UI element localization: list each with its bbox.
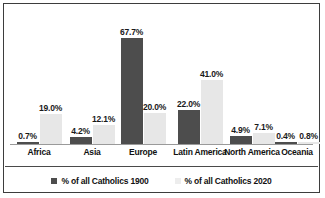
bar-1900[interactable]: 67.7% <box>121 38 143 144</box>
bar-1900[interactable]: 0.4% <box>275 142 297 144</box>
legend-label-2020: % of all Catholics 2020 <box>185 176 272 186</box>
bar-rect[interactable] <box>70 137 92 144</box>
x-axis-line <box>10 144 313 145</box>
bar-1900[interactable]: 22.0% <box>178 110 200 144</box>
bar-value-label: 19.0% <box>39 103 62 113</box>
bar-value-label: 0.7% <box>18 131 37 141</box>
bar-rect[interactable] <box>17 142 39 144</box>
bar-value-label: 20.0% <box>143 102 166 112</box>
chart-legend: % of all Catholics 1900 % of all Catholi… <box>4 170 319 192</box>
bar-value-label: 7.1% <box>254 122 273 132</box>
bar-2020[interactable]: 0.8% <box>298 142 320 144</box>
bar-2020[interactable]: 20.0% <box>144 113 166 144</box>
series-2-swatch-icon <box>175 178 181 184</box>
bar-value-label: 67.7% <box>120 27 143 37</box>
legend-separator-line <box>5 166 318 167</box>
category-label-oceania: Oceania <box>261 147 325 157</box>
bar-rect[interactable] <box>275 142 297 144</box>
bar-rect[interactable] <box>144 113 166 144</box>
legend-item-2020[interactable]: % of all Catholics 2020 <box>175 176 272 186</box>
bar-value-label: 0.4% <box>276 131 295 141</box>
bar-1900[interactable]: 4.2% <box>70 137 92 144</box>
bar-rect[interactable] <box>121 38 143 144</box>
bar-value-label: 4.2% <box>71 126 90 136</box>
bar-value-label: 0.8% <box>299 131 318 141</box>
chart-frame: Africa0.7%19.0%Asia4.2%12.1%Europe67.7%2… <box>3 3 320 193</box>
bar-value-label: 41.0% <box>200 69 223 79</box>
bar-group: 0.4%0.8% <box>261 142 325 144</box>
plot-area: Africa0.7%19.0%Asia4.2%12.1%Europe67.7%2… <box>4 4 319 163</box>
bar-value-label: 22.0% <box>177 99 200 109</box>
bar-1900[interactable]: 4.9% <box>230 136 252 144</box>
bar-rect[interactable] <box>230 136 252 144</box>
legend-item-1900[interactable]: % of all Catholics 1900 <box>51 176 148 186</box>
bar-rect[interactable] <box>298 142 320 144</box>
legend-label-1900: % of all Catholics 1900 <box>61 176 148 186</box>
bar-rect[interactable] <box>178 110 200 144</box>
series-1-swatch-icon <box>51 178 57 184</box>
bar-1900[interactable]: 0.7% <box>17 142 39 144</box>
bar-value-label: 4.9% <box>231 125 250 135</box>
